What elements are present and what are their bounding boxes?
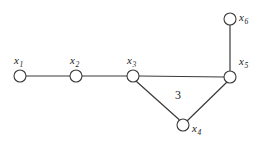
node-label-x4: x4 (192, 123, 201, 134)
node-label-x2: x2 (70, 55, 79, 66)
edge-x3-x5 (139, 76, 224, 77)
node-x4 (177, 119, 189, 131)
edge-x3-x4 (137, 82, 180, 120)
node-x6 (224, 13, 236, 25)
node-x1 (14, 70, 26, 82)
node-x3 (127, 70, 139, 82)
node-label-x3: x3 (127, 55, 136, 66)
edge-x4-x5 (188, 83, 227, 121)
node-label-x1: x1 (14, 55, 23, 66)
node-group (14, 13, 236, 131)
node-x5 (224, 71, 236, 83)
graph-canvas (0, 0, 270, 143)
node-label-x5: x5 (239, 56, 248, 67)
node-x2 (70, 70, 82, 82)
node-label-x6: x6 (239, 12, 248, 23)
graph-diagram: x1 x2 x3 x4 x5 x6 3 (0, 0, 270, 143)
edge-weight-label-3: 3 (175, 89, 181, 101)
